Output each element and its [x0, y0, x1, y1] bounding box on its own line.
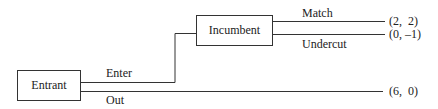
out-label: Out [106, 93, 124, 108]
payoff-undercut: (0, –1) [389, 27, 421, 42]
enter-label: Enter [106, 66, 132, 81]
undercut-label: Undercut [302, 37, 347, 52]
entrant-node: Entrant [17, 70, 81, 101]
incumbent-node: Incumbent [196, 15, 273, 46]
edge-enter [80, 34, 196, 83]
payoff-out: (6, 0) [389, 84, 418, 99]
entrant-label: Entrant [31, 78, 66, 93]
match-label: Match [302, 6, 333, 21]
incumbent-label: Incumbent [209, 23, 260, 38]
